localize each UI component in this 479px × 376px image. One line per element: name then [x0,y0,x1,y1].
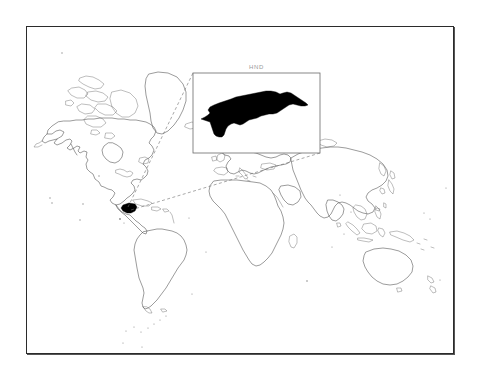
map-outer-frame [26,26,454,354]
locator-map-figure: HND [0,0,479,376]
inset-label: HND [193,63,320,72]
